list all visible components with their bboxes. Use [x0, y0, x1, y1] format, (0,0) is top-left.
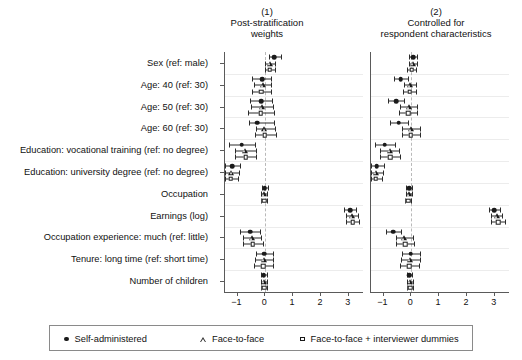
category-label-0: Sex (ref: male) — [147, 58, 208, 68]
confidence-interval-cap — [255, 133, 256, 138]
confidence-interval-cap — [388, 98, 389, 103]
y-tick — [220, 172, 224, 173]
x-tick-label-p2-3: 2 — [463, 297, 468, 307]
x-tick — [320, 292, 321, 296]
gridline — [371, 183, 509, 184]
y-tick — [220, 216, 224, 217]
x-tick — [237, 292, 238, 296]
confidence-interval-cap — [396, 242, 397, 247]
point-marker-square — [229, 177, 234, 182]
panel-2-header: (2) Controlled for respondent characteri… — [351, 6, 521, 39]
gridline — [225, 183, 363, 184]
confidence-interval-cap — [229, 142, 230, 147]
confidence-interval-cap — [420, 257, 421, 262]
confidence-interval-cap — [489, 208, 490, 213]
confidence-interval-cap — [263, 242, 264, 247]
confidence-interval-cap — [273, 251, 274, 256]
confidence-interval-cap — [273, 105, 274, 110]
coefficient-plot-figure: (1) Post-stratification weights (2) Cont… — [0, 0, 522, 360]
confidence-interval-cap — [400, 105, 401, 110]
point-marker-circle — [383, 142, 388, 147]
category-label-10: Number of children — [129, 276, 208, 286]
x-tick-label-p2-2: 1 — [436, 297, 441, 307]
point-marker-square — [267, 67, 272, 72]
confidence-interval-cap — [275, 67, 276, 72]
confidence-interval-cap — [249, 120, 250, 125]
panel-1-header: (1) Post-stratification weights — [197, 6, 337, 39]
category-label-1: Age: 40 (ref: 30) — [141, 80, 208, 90]
point-marker-square — [388, 155, 393, 160]
confidence-interval-cap — [412, 192, 413, 197]
confidence-interval-cap — [371, 176, 372, 181]
y-tick — [220, 259, 224, 260]
legend-item-face-to-face-dummies: Face-to-face + interviewer dummies — [300, 326, 459, 352]
gridline — [225, 139, 363, 140]
y-tick — [220, 85, 224, 86]
confidence-interval-cap — [254, 264, 255, 269]
triangle-marker-icon — [200, 337, 206, 342]
confidence-interval-cap — [417, 61, 418, 66]
confidence-interval-cap — [250, 98, 251, 103]
panel-1-plot-area — [224, 52, 363, 292]
confidence-interval-cap — [380, 154, 381, 159]
circle-marker-icon — [64, 337, 69, 342]
confidence-interval-cap — [225, 164, 226, 169]
legend-item-self-administered: Self-administered — [64, 326, 147, 352]
point-marker-square — [496, 220, 501, 225]
confidence-interval-cap — [408, 77, 409, 82]
x-tick-label-p2-4: 3 — [491, 297, 496, 307]
confidence-interval-cap — [276, 133, 277, 138]
point-marker-triangle — [373, 170, 379, 175]
category-label-7: Earnings (log) — [150, 211, 208, 221]
triangle-inner — [388, 150, 390, 153]
triangle-inner — [411, 62, 413, 65]
confidence-interval-cap — [491, 214, 492, 219]
confidence-interval-cap — [248, 111, 249, 116]
confidence-interval-cap — [401, 229, 402, 234]
y-tick — [220, 194, 224, 195]
x-tick — [264, 292, 265, 296]
gridline — [371, 139, 509, 140]
confidence-interval-cap — [395, 142, 396, 147]
point-marker-triangle — [349, 213, 355, 218]
point-marker-circle — [230, 164, 235, 169]
confidence-interval-cap — [256, 148, 257, 153]
confidence-interval-cap — [359, 220, 360, 225]
point-marker-triangle — [401, 235, 407, 240]
confidence-interval-cap — [416, 89, 417, 94]
confidence-interval-cap — [267, 198, 268, 203]
confidence-interval-cap — [281, 55, 282, 60]
confidence-interval-cap — [256, 126, 257, 131]
point-marker-triangle — [261, 279, 267, 284]
triangle-inner — [408, 281, 410, 284]
confidence-interval-cap — [407, 67, 408, 72]
gridline — [225, 248, 363, 249]
panel-1-number: (1) — [197, 6, 337, 17]
gridline — [371, 248, 509, 249]
point-marker-circle — [260, 77, 265, 82]
x-tick-label-p1-1: 0 — [262, 297, 267, 307]
confidence-interval-cap — [404, 98, 405, 103]
confidence-interval-cap — [254, 83, 255, 88]
confidence-interval-cap — [265, 61, 266, 66]
confidence-interval-cap — [400, 154, 401, 159]
confidence-interval-cap — [412, 273, 413, 278]
confidence-interval-cap — [240, 229, 241, 234]
triangle-inner — [407, 193, 409, 196]
confidence-interval-cap — [420, 251, 421, 256]
point-marker-circle — [492, 208, 497, 213]
triangle-inner — [261, 84, 263, 87]
triangle-inner — [250, 237, 252, 240]
gridline — [225, 227, 363, 228]
confidence-interval-cap — [356, 208, 357, 213]
point-marker-circle — [262, 251, 267, 256]
confidence-interval-cap — [399, 148, 400, 153]
triangle-inner — [495, 215, 497, 218]
confidence-interval-cap — [416, 67, 417, 72]
triangle-inner — [262, 193, 264, 196]
confidence-interval-cap — [272, 98, 273, 103]
triangle-inner — [409, 128, 411, 131]
confidence-interval-cap — [268, 186, 269, 191]
confidence-interval-cap — [371, 164, 372, 169]
confidence-interval-cap — [252, 77, 253, 82]
